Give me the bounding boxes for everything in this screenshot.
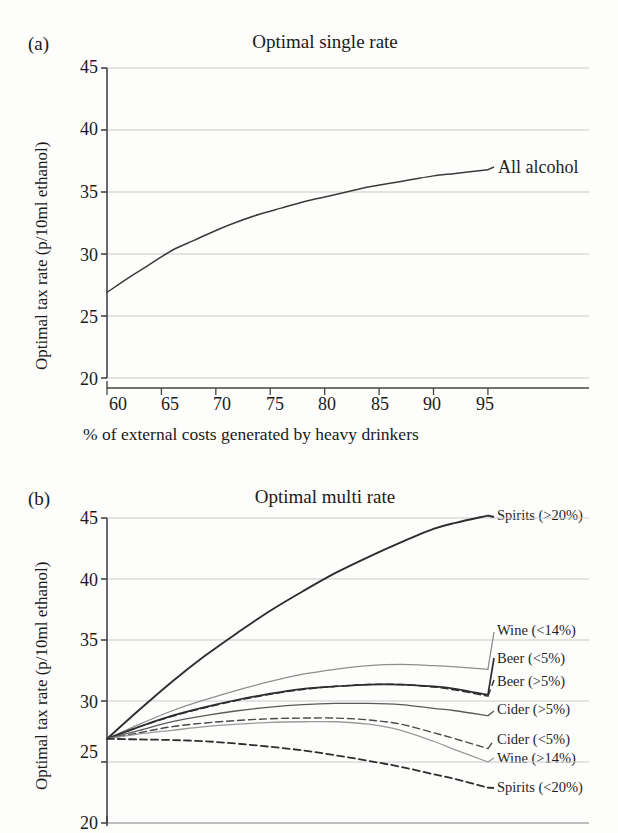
panel-a-optimal-single-rate: (a) Optimal single rate Optimal tax rate…: [0, 0, 618, 460]
panel-a-xtick-75: 75: [255, 394, 295, 415]
panel-a-xtick-80: 80: [307, 394, 347, 415]
panel-a-xtick-65: 65: [150, 394, 190, 415]
panel-a-xtick-95: 95: [465, 394, 505, 415]
panel-a-xtick-60: 60: [98, 394, 138, 415]
panel-a-ytick-25: 25: [58, 307, 98, 328]
panel-b-series-label-beer-high: Beer (>5%): [497, 673, 565, 690]
panel-a-ytick-40: 40: [58, 119, 98, 140]
panel-b-title: Optimal multi rate: [160, 486, 490, 508]
panel-b-series-label-cider-low: Cider (<5%): [497, 731, 570, 748]
panel-b-ytick-35: 35: [58, 630, 98, 651]
panel-b-series-label-spirits-high: Spirits (>20%): [497, 507, 583, 524]
panel-b-ytick-40: 40: [58, 570, 98, 591]
panel-a-ytick-20: 20: [58, 369, 98, 390]
panel-a-title: Optimal single rate: [160, 31, 490, 53]
panel-a-ytick-30: 30: [58, 245, 98, 266]
panel-b-series-label-wine-low: Wine (<14%): [497, 622, 576, 639]
panel-a-series-label-all-alcohol: All alcohol: [498, 157, 578, 178]
panel-a-ytick-35: 35: [58, 182, 98, 203]
panel-a-xtick-90: 90: [412, 394, 452, 415]
panel-b-series-label-cider-high: Cider (>5%): [497, 701, 570, 718]
panel-a-xtick-85: 85: [360, 394, 400, 415]
panel-b-y-axis-label: Optimal tax rate (p/10ml ethanol): [32, 562, 52, 791]
panel-b-series-label-wine-high: Wine (>14%): [497, 750, 576, 767]
panel-b-ytick-30: 30: [58, 692, 98, 713]
panel-a-letter: (a): [28, 33, 49, 55]
panel-a-ytick-45: 45: [58, 57, 98, 78]
panel-b-series-label-spirits-low: Spirits (<20%): [497, 779, 583, 796]
panel-a-x-axis-label: % of external costs generated by heavy d…: [83, 424, 419, 445]
panel-b-series-label-beer-low: Beer (<5%): [497, 650, 565, 667]
panel-b-ytick-20: 20: [58, 813, 98, 833]
panel-b-letter: (b): [28, 488, 50, 510]
panel-b-ytick-45: 45: [58, 508, 98, 529]
panel-b-optimal-multi-rate: (b) Optimal multi rate Optimal tax rate …: [0, 460, 618, 828]
panel-b-ytick-25: 25: [58, 742, 98, 763]
panel-a-y-axis-label: Optimal tax rate (p/10ml ethanol): [32, 142, 52, 371]
panel-a-xtick-70: 70: [202, 394, 242, 415]
